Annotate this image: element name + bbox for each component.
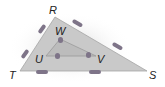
vertex-label-r: R — [49, 5, 57, 16]
tick-mark-ts-left — [36, 70, 48, 74]
triangle-diagram — [0, 0, 165, 87]
vertex-label-u: U — [35, 54, 43, 65]
tick-mark-inner-uv — [55, 53, 60, 59]
tick-mark-inner-wv — [86, 52, 91, 58]
vertex-label-v: V — [97, 54, 104, 65]
tick-mark-ts-right — [89, 70, 101, 74]
vertex-label-t: T — [9, 70, 16, 81]
tick-mark-inner-wu — [58, 37, 63, 43]
vertex-label-w: W — [55, 26, 65, 37]
vertex-label-s: S — [149, 70, 156, 81]
